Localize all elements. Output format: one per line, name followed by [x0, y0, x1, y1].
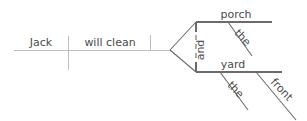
label-verb: will clean [84, 36, 135, 49]
fork-lower-arm [170, 50, 196, 72]
label-object-two: yard [221, 58, 246, 71]
label-subject: Jack [29, 36, 53, 49]
label-object-one: porch [220, 8, 251, 21]
fork-upper-arm [170, 22, 196, 50]
label-object-two-modifier: front [268, 76, 296, 105]
sentence-diagram: Jack will clean and porch the yard the f… [0, 0, 307, 121]
sentence-diagram-canvas: Jack will clean and porch the yard the f… [0, 0, 307, 121]
label-object-one-article: the [232, 27, 254, 49]
label-conjunction: and [194, 40, 207, 61]
